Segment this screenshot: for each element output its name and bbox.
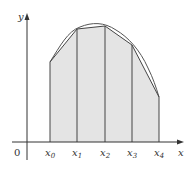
tick-label-x1: x1 [72,147,82,160]
trapezoid-rule-diagram: y x 0 x0 x1 x2 x3 x4 [0,0,196,169]
tick-label-x4: x4 [154,147,164,160]
x-axis-label: x [178,147,184,158]
y-axis-label: y [17,11,24,22]
y-axis-arrow-icon [25,13,30,20]
x-axis-arrow-icon [177,140,184,145]
tick-label-x3: x3 [127,147,138,160]
origin-label: 0 [14,147,20,158]
tick-label-x0: x0 [45,147,56,160]
tick-label-x2: x2 [100,147,111,160]
